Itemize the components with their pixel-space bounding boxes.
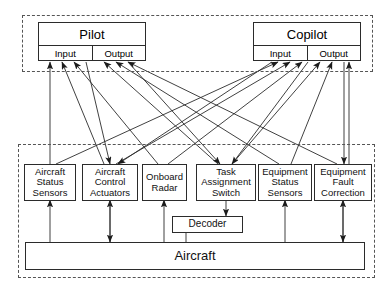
copilot-ports: Input Output [254, 46, 360, 60]
decoder-label: Decoder [189, 219, 227, 230]
component-line: Sensors [33, 188, 68, 198]
component-line: Switch [212, 188, 240, 198]
pilot-output-port[interactable]: Output [92, 46, 146, 60]
component-line: Actuators [90, 188, 130, 198]
component-task-assignment-switch[interactable]: Task Assignment Switch [196, 164, 256, 201]
component-line: Sensors [268, 188, 303, 198]
platform-aircraft[interactable]: Aircraft [25, 242, 365, 270]
component-line: Onboard [146, 172, 183, 182]
pilot-label: Pilot [39, 23, 145, 46]
copilot-input-port[interactable]: Input [254, 46, 307, 60]
pilot-input-port[interactable]: Input [39, 46, 92, 60]
pilot-ports: Input Output [39, 46, 145, 60]
component-equipment-fault-correction[interactable]: Equipment Fault Correction [314, 164, 372, 201]
component-aircraft-status-sensors[interactable]: Aircraft Status Sensors [24, 164, 76, 201]
copilot-label: Copilot [254, 23, 360, 46]
component-equipment-status-sensors[interactable]: Equipment Status Sensors [258, 164, 312, 201]
block-diagram-root: Pilot Input Output Copilot Input Output … [0, 0, 392, 297]
component-onboard-radar[interactable]: Onboard Radar [142, 164, 187, 201]
copilot-output-port[interactable]: Output [307, 46, 361, 60]
pilot-unit[interactable]: Pilot Input Output [38, 22, 146, 61]
component-line: Radar [152, 183, 178, 193]
aircraft-label: Aircraft [174, 249, 215, 263]
component-decoder[interactable]: Decoder [172, 216, 243, 233]
copilot-unit[interactable]: Copilot Input Output [253, 22, 361, 61]
component-line: Correction [321, 188, 365, 198]
component-aircraft-control-actuators[interactable]: Aircraft Control Actuators [82, 164, 138, 201]
